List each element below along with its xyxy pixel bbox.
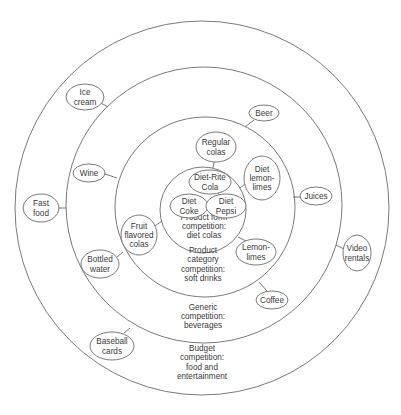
ring-label: diet colas — [187, 231, 222, 240]
connector-bottled-water — [117, 252, 123, 257]
node-coffee: Coffee — [256, 291, 288, 309]
connector-fruit-flavored-colas — [155, 221, 162, 226]
connector-ice-cream — [101, 103, 108, 107]
node-label: rentals — [345, 254, 370, 263]
connector-diet-lemon-limes — [240, 184, 245, 188]
node-label: Lemon- — [242, 243, 270, 252]
node-video-rentals: Videorentals — [343, 235, 371, 271]
node-label: Diet-Rite — [194, 173, 226, 182]
connector-regular-colas — [213, 162, 214, 168]
node-label: cards — [102, 347, 122, 356]
connector-wine — [105, 174, 117, 178]
ring-label: soft drinks — [184, 274, 221, 283]
node-label: Wine — [80, 169, 99, 178]
node-label: Juices — [304, 192, 327, 201]
node-label: limes — [246, 253, 265, 262]
node-label: Bottled — [87, 255, 113, 264]
node-label: colas — [206, 148, 225, 157]
node-lemon-limes: Lemon-limes — [236, 239, 276, 265]
node-wine: Wine — [73, 164, 105, 182]
competition-levels-diagram: Budgetcompetition:food andentertainmentG… — [0, 0, 401, 415]
ring-label: Budget — [189, 344, 216, 353]
node-label: Cola — [202, 183, 219, 192]
node-diet-pepsi: DietPepsi — [206, 194, 246, 218]
connector-baseball-cards — [124, 328, 130, 333]
ring-label: category — [187, 255, 219, 264]
node-diet-rite-cola: Diet-RiteCola — [189, 170, 231, 194]
node-juices: Juices — [300, 187, 332, 205]
ring-label: beverages — [184, 321, 222, 330]
node-label: cream — [74, 98, 97, 107]
ring-label-budget: Budgetcompetition:food andentertainment — [177, 344, 228, 381]
ring-label: Product — [189, 246, 218, 255]
ring-label-generic: Genericcompetition:beverages — [181, 303, 225, 331]
node-beer: Beer — [249, 105, 279, 121]
node-label: Beer — [255, 109, 273, 118]
node-label: limes — [252, 183, 271, 192]
node-label: Diet — [255, 165, 270, 174]
node-regular-colas: Regularcolas — [196, 132, 236, 162]
node-bottled-water: Bottledwater — [81, 250, 119, 278]
ring-label: competition: — [181, 265, 225, 274]
ring-label: food and — [186, 363, 218, 372]
connector-video-rentals — [336, 245, 344, 249]
node-label: Fruit — [131, 222, 148, 231]
node-label: Ice — [80, 88, 91, 97]
node-label: Coke — [179, 207, 199, 216]
node-label: lemon- — [249, 174, 274, 183]
node-label: colas — [129, 240, 148, 249]
node-diet-coke: DietCoke — [170, 194, 208, 218]
node-ice-cream: Icecream — [66, 84, 104, 110]
node-label: food — [33, 209, 49, 218]
node-diet-lemon-limes: Dietlemon-limes — [244, 156, 280, 200]
node-label: Video — [347, 244, 368, 253]
connector-lemon-limes — [238, 237, 246, 241]
node-label: Regular — [202, 138, 231, 147]
connector-beer — [245, 120, 254, 127]
node-fast-food: Fastfood — [23, 194, 59, 222]
node-baseball-cards: Baseballcards — [90, 332, 134, 360]
ring-label-product-category: Productcategorycompetition:soft drinks — [181, 246, 225, 283]
node-label: Pepsi — [216, 207, 237, 216]
node-label: Diet — [219, 197, 234, 206]
ring-label: Generic — [189, 303, 218, 312]
node-label: Diet — [182, 197, 197, 206]
node-label: flavored — [124, 231, 154, 240]
connector-coffee — [259, 282, 267, 291]
node-label: water — [89, 265, 110, 274]
ring-label: entertainment — [177, 372, 228, 381]
node-label: Coffee — [260, 296, 284, 305]
ring-label: competition: — [181, 312, 225, 321]
node-label: Baseball — [96, 337, 128, 346]
node-fruit-flavored-colas: Fruitflavoredcolas — [121, 215, 157, 255]
ring-label: competition: — [182, 222, 226, 231]
ring-label: competition: — [180, 353, 224, 362]
node-label: Fast — [33, 199, 50, 208]
